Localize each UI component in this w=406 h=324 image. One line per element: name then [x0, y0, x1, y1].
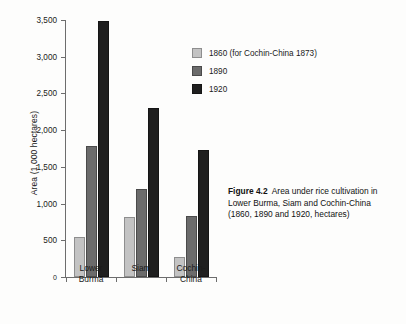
x-axis-category-label: LowerBurma — [66, 263, 116, 285]
legend-item: 1890 — [192, 62, 317, 80]
y-tick: 2,500 — [61, 93, 66, 94]
bar — [198, 150, 209, 277]
y-tick: 500 — [61, 240, 66, 241]
y-tick-label: 3,500 — [37, 16, 58, 25]
category-label-line: Siam — [116, 263, 166, 274]
figure-caption: Figure 4.2 Area under rice cultivation i… — [228, 186, 390, 221]
category-label-line: Burma — [66, 274, 116, 285]
y-tick: 1,500 — [61, 167, 66, 168]
y-tick: 3,500 — [61, 20, 66, 21]
bar — [148, 108, 159, 277]
y-tick: 3,000 — [61, 57, 66, 58]
legend-item: 1920 — [192, 80, 317, 98]
bar — [86, 146, 97, 277]
y-tick-label: 2,000 — [37, 126, 58, 135]
y-tick-label: 500 — [43, 236, 57, 245]
x-tick — [216, 277, 217, 282]
category-label-line: China — [166, 274, 216, 285]
y-tick: 2,000 — [61, 130, 66, 131]
legend-swatch — [192, 48, 202, 58]
figure-container: Area (1,000 hectares) 05001,0001,5002,00… — [0, 0, 406, 324]
legend-label: 1890 — [209, 67, 227, 76]
y-tick-label: 3,000 — [37, 52, 58, 61]
y-tick-label: 2,500 — [37, 89, 58, 98]
y-tick-label: 1,000 — [37, 199, 58, 208]
legend-item: 1860 (for Cochin-China 1873) — [192, 44, 317, 62]
x-tick — [116, 277, 117, 282]
x-axis-category-label: Cochin-China — [166, 263, 216, 285]
y-tick: 1,000 — [61, 204, 66, 205]
chart-legend: 1860 (for Cochin-China 1873)18901920 — [192, 44, 317, 98]
category-label-line: Lower — [66, 263, 116, 274]
legend-label: 1860 (for Cochin-China 1873) — [209, 49, 317, 58]
x-axis-category-label: Siam — [116, 263, 166, 274]
legend-swatch — [192, 66, 202, 76]
figure-caption-label: Figure 4.2 — [228, 186, 268, 196]
legend-label: 1920 — [209, 85, 227, 94]
bar — [98, 21, 109, 277]
category-label-line: Cochin- — [166, 263, 216, 274]
y-tick-label: 0 — [53, 274, 57, 281]
y-tick-label: 1,500 — [37, 162, 58, 171]
legend-swatch — [192, 84, 202, 94]
